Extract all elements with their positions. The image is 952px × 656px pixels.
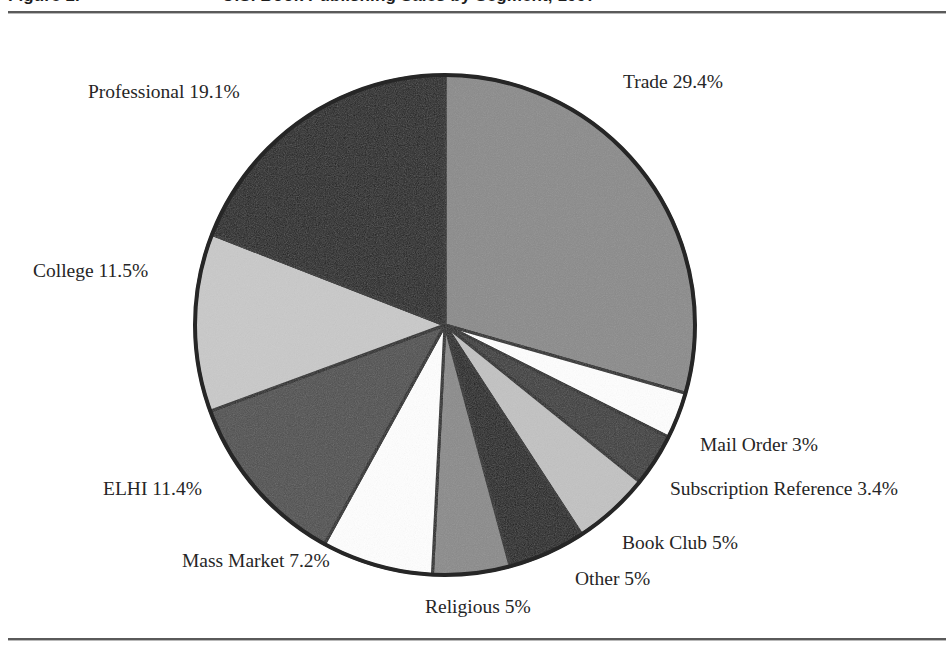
slice-label-elhi: ELHI 11.4%	[103, 479, 202, 499]
slice-label-mail-order: Mail Order 3%	[700, 435, 818, 455]
slice-label-other: Other 5%	[575, 569, 650, 589]
bottom-rule	[8, 638, 946, 640]
slice-label-mass-market: Mass Market 7.2%	[182, 551, 330, 571]
slice-label-subscription-reference: Subscription Reference 3.4%	[670, 479, 898, 499]
top-rule	[8, 11, 946, 13]
slice-label-professional: Professional 19.1%	[88, 82, 240, 102]
figure-title: Figure 1. U.S. Book Publishing Sales by …	[0, 0, 952, 8]
pie-chart-svg	[192, 72, 698, 578]
pie-slice-group	[195, 75, 695, 575]
figure-container: Figure 1. U.S. Book Publishing Sales by …	[0, 0, 952, 656]
slice-label-religious: Religious 5%	[425, 597, 531, 617]
figure-title-number: Figure 1.	[8, 0, 80, 6]
slice-label-college: College 11.5%	[33, 261, 148, 281]
slice-label-trade: Trade 29.4%	[623, 72, 723, 92]
slice-label-book-club: Book Club 5%	[622, 533, 738, 553]
pie-chart	[192, 72, 698, 578]
figure-title-text: U.S. Book Publishing Sales by Segment, 1…	[222, 0, 596, 6]
